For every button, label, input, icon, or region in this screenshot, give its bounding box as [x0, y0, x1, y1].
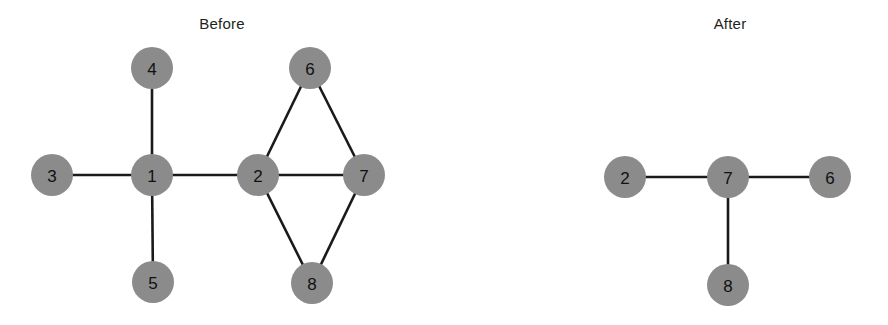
graph-node-before-2[interactable]: 2: [237, 154, 279, 196]
graph-node-before-3[interactable]: 3: [31, 154, 73, 196]
node-label: 5: [148, 274, 157, 293]
graph-figure: Before After 123456782768: [0, 0, 888, 325]
node-label: 6: [825, 169, 834, 188]
graph-node-before-1[interactable]: 1: [131, 154, 173, 196]
graph-node-after-7[interactable]: 7: [707, 156, 749, 198]
graph-node-before-7[interactable]: 7: [343, 154, 385, 196]
node-label: 8: [307, 275, 316, 294]
graph-nodes: 123456782768: [31, 47, 851, 306]
graph-node-after-2[interactable]: 2: [604, 156, 646, 198]
node-label: 2: [620, 169, 629, 188]
node-label: 1: [147, 167, 156, 186]
graph-node-after-8[interactable]: 8: [707, 264, 749, 306]
graph-node-before-6[interactable]: 6: [289, 47, 331, 89]
graph-node-after-6[interactable]: 6: [809, 156, 851, 198]
node-label: 2: [253, 167, 262, 186]
graph-node-before-5[interactable]: 5: [132, 261, 174, 303]
node-label: 7: [359, 167, 368, 186]
graph-node-before-8[interactable]: 8: [291, 262, 333, 304]
node-label: 6: [305, 60, 314, 79]
node-label: 8: [723, 277, 732, 296]
node-label: 7: [723, 169, 732, 188]
graph-node-before-4[interactable]: 4: [131, 47, 173, 89]
node-label: 4: [147, 60, 156, 79]
node-link-graph-canvas: 123456782768: [0, 0, 888, 325]
node-label: 3: [47, 167, 56, 186]
